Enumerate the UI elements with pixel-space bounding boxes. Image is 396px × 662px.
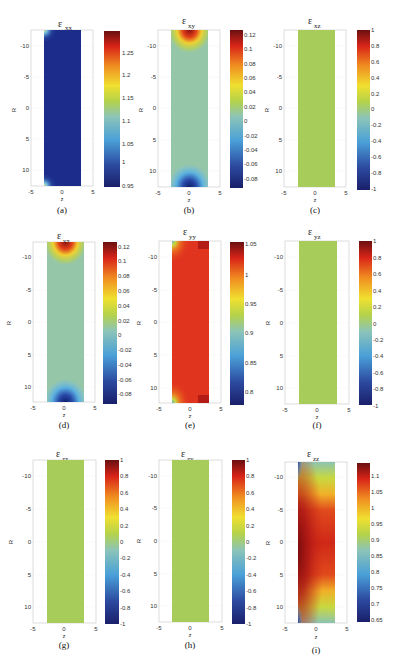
panel-caption: (e)	[185, 420, 195, 430]
svg-text:5: 5	[218, 190, 222, 196]
panel-title-main: ε	[307, 448, 311, 459]
svg-text:-0.8: -0.8	[246, 605, 257, 611]
svg-text:-0.4: -0.4	[371, 138, 382, 144]
x-axis-label: z	[189, 632, 192, 638]
svg-text:0: 0	[187, 190, 191, 196]
svg-text:0.12: 0.12	[118, 244, 130, 250]
svg-text:-10: -10	[148, 254, 157, 260]
svg-text:0.6: 0.6	[371, 59, 380, 65]
svg-text:-10: -10	[20, 43, 29, 49]
svg-text:0.08: 0.08	[244, 61, 256, 67]
svg-text:-0.04: -0.04	[118, 362, 132, 368]
svg-text:-5: -5	[26, 506, 32, 512]
svg-text:0: 0	[120, 539, 124, 545]
panel-i: ε zz -10 -5 0 5 10 -5 0 5 z R 1.1 1.05 1…	[265, 448, 383, 655]
svg-text:5: 5	[154, 571, 158, 577]
colorbar	[103, 242, 117, 404]
svg-text:0: 0	[280, 320, 284, 326]
svg-text:-0.8: -0.8	[371, 170, 382, 176]
svg-text:5: 5	[219, 406, 223, 412]
svg-text:0: 0	[246, 539, 250, 545]
svg-text:5: 5	[347, 407, 351, 413]
svg-text:-1: -1	[371, 186, 377, 192]
x-axis-label: z	[314, 197, 317, 203]
y-axis-label: R	[136, 320, 142, 325]
svg-text:1: 1	[246, 457, 250, 463]
panel-g: ε zx -10 -5 0 5 10 -5 0 5 z R 1 0.8 0.6 …	[8, 448, 131, 650]
svg-text:0: 0	[314, 626, 318, 632]
colorbar-ticks: 1.05 1 0.95 0.9 0.85 0.8	[245, 241, 257, 395]
x-axis-label: z	[315, 634, 318, 640]
panel-e: ε yy -10 -5 0 5 10 -5 0 5 z R 1.05 1 0.9…	[136, 226, 257, 430]
panel-caption: (d)	[59, 420, 70, 430]
x-axis-label: z	[63, 412, 66, 418]
svg-text:0.95: 0.95	[245, 301, 257, 307]
svg-text:0.95: 0.95	[371, 521, 383, 527]
panel-h: ε zy -10 -5 0 5 10 -5 0 5 z R 1 0.8 0.6 …	[136, 448, 257, 650]
heatmap-lobe-bottom	[171, 147, 208, 187]
svg-text:-5: -5	[282, 407, 288, 413]
panel-caption: (b)	[184, 205, 195, 215]
colorbar-ticks: 0.12 0.1 0.08 0.06 0.04 0.02 0 -0.02 -0.…	[118, 244, 132, 397]
svg-text:0: 0	[153, 105, 157, 111]
svg-text:1.1: 1.1	[122, 118, 131, 124]
y-ticks: -10 -5 0 5 10	[274, 474, 283, 610]
svg-text:5: 5	[28, 352, 32, 358]
y-ticks: -10 -5 0 5 10	[274, 254, 283, 391]
figure-canvas: ε xx -10 -5 0 5 10 -5 0 5 z R 1.25 1.2 1…	[0, 0, 396, 662]
panel-title-main: ε	[183, 226, 187, 237]
svg-text:5: 5	[344, 190, 348, 196]
panel-f: ε yz -10 -5 0 5 10 -5 0 5 z R 1 0.8 0.6 …	[265, 226, 384, 430]
svg-text:5: 5	[28, 572, 32, 578]
heatmap-corner-bottom	[298, 462, 335, 623]
svg-text:1.25: 1.25	[122, 50, 134, 56]
panel-title-sub: xz	[314, 22, 321, 30]
colorbar-ticks: 0.12 0.1 0.08 0.06 0.04 0.02 0 -0.02 -0.…	[244, 32, 258, 182]
svg-text:0.02: 0.02	[244, 104, 256, 110]
svg-text:0.7: 0.7	[371, 601, 380, 607]
panel-b: ε xy -10 -5 0 5 10 -5 0 5 z R 0.12 0.1 0…	[138, 15, 258, 215]
svg-text:5: 5	[280, 572, 284, 578]
svg-text:0.85: 0.85	[245, 360, 257, 366]
svg-text:0: 0	[373, 321, 377, 327]
panel-title-main: ε	[58, 18, 62, 29]
svg-text:10: 10	[22, 167, 29, 173]
svg-text:5: 5	[94, 626, 98, 632]
panel-title-main: ε	[56, 448, 60, 459]
x-axis-label: z	[61, 196, 64, 202]
svg-text:1: 1	[245, 272, 249, 278]
x-ticks: -5 0 5	[156, 406, 223, 412]
svg-text:-0.6: -0.6	[373, 370, 384, 376]
colorbar-ticks: 1 0.8 0.6 0.4 0.2 0 -0.2 -0.4 -0.6 -0.8 …	[373, 238, 384, 409]
svg-text:10: 10	[24, 384, 31, 390]
svg-text:-5: -5	[26, 287, 32, 293]
heatmap-hotspot-top	[44, 30, 58, 44]
colorbar-ticks: 1.1 1.05 1 0.95 0.9 0.85 0.8 0.75 0.7 0.…	[371, 473, 383, 623]
colorbar	[357, 463, 370, 622]
svg-text:0: 0	[188, 406, 192, 412]
svg-text:-0.06: -0.06	[244, 161, 258, 167]
y-axis-label: R	[11, 107, 17, 112]
y-axis-label: R	[136, 538, 142, 543]
svg-text:-5: -5	[278, 287, 284, 293]
x-ticks: -5 0 5	[281, 190, 348, 196]
heatmap-dark-bottom-right	[198, 395, 209, 403]
svg-text:1: 1	[373, 238, 377, 244]
x-ticks: -5 0 5	[282, 626, 349, 632]
svg-text:-10: -10	[274, 474, 283, 480]
svg-text:-5: -5	[152, 287, 158, 293]
svg-text:-0.4: -0.4	[246, 572, 257, 578]
panel-caption: (a)	[57, 205, 67, 215]
x-ticks: -5 0 5	[155, 190, 222, 196]
svg-text:-0.6: -0.6	[371, 154, 382, 160]
svg-text:-0.2: -0.2	[371, 122, 382, 128]
svg-text:1.1: 1.1	[371, 473, 380, 479]
y-ticks: -10 -5 0 5 10	[148, 254, 157, 391]
svg-text:5: 5	[220, 625, 224, 631]
svg-text:-5: -5	[28, 189, 34, 195]
svg-text:10: 10	[276, 385, 283, 391]
svg-text:-1: -1	[120, 621, 126, 627]
svg-text:1: 1	[371, 505, 375, 511]
svg-text:-5: -5	[151, 74, 157, 80]
panel-title-sub: yy	[189, 233, 197, 241]
